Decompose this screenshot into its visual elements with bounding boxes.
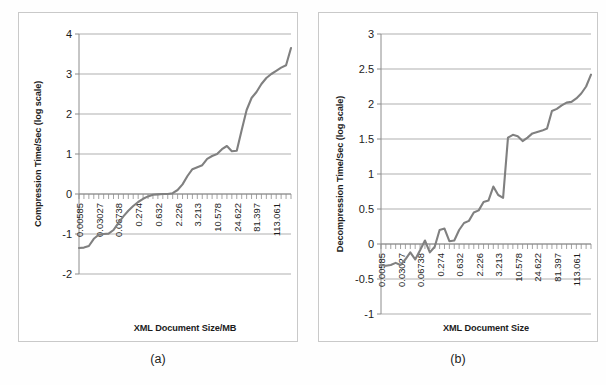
x-tick-label: 81.397 bbox=[251, 203, 262, 232]
x-tick-label: 81.397 bbox=[552, 253, 563, 282]
x-tick-label: 0.00585 bbox=[74, 203, 85, 237]
x-tick-label: 0.03027 bbox=[396, 253, 407, 287]
y-tick-label: 2 bbox=[368, 98, 374, 110]
y-tick-label: -1 bbox=[364, 308, 374, 320]
figure-root: -2-1012340.005850.030270.067380.2740.632… bbox=[0, 0, 606, 385]
y-tick-label: 0 bbox=[66, 188, 72, 200]
y-tick-label: 3 bbox=[66, 68, 72, 80]
y-axis-title: Compression Time/Sec (log scale) bbox=[33, 81, 43, 227]
y-tick-label: 1 bbox=[368, 168, 374, 180]
caption-b: (b) bbox=[318, 352, 598, 366]
x-tick-label: 0.06738 bbox=[113, 203, 124, 237]
y-tick-label: 0 bbox=[368, 238, 374, 250]
x-tick-label: 3.213 bbox=[493, 253, 504, 276]
chart-panel-a: -2-1012340.005850.030270.067380.2740.632… bbox=[18, 12, 298, 342]
chart-a-canvas: -2-1012340.005850.030270.067380.2740.632… bbox=[19, 13, 299, 343]
x-tick-label: 24.622 bbox=[232, 203, 243, 232]
x-tick-label: 113.061 bbox=[271, 203, 282, 236]
series-line bbox=[381, 75, 591, 266]
x-tick-label: 0.03027 bbox=[94, 203, 105, 237]
x-tick-label: 0.632 bbox=[454, 253, 465, 276]
y-tick-label: 4 bbox=[66, 28, 72, 40]
chart-panel-b: -1-0.500.511.522.530.005850.030270.06738… bbox=[318, 12, 598, 342]
x-tick-label: 24.622 bbox=[532, 253, 543, 282]
x-tick-label: 0.274 bbox=[435, 253, 446, 276]
x-tick-label: 3.213 bbox=[192, 203, 203, 226]
x-tick-label: 0.274 bbox=[133, 203, 144, 226]
y-tick-label: 1.5 bbox=[359, 133, 374, 145]
y-tick-label: 2 bbox=[66, 108, 72, 120]
y-tick-label: -0.5 bbox=[355, 273, 374, 285]
y-tick-label: -2 bbox=[62, 268, 72, 280]
x-axis-title: XML Document Size/MB bbox=[134, 323, 237, 333]
y-axis-title: Decompression Time/Sec (log scale) bbox=[335, 96, 345, 252]
x-tick-label: 2.226 bbox=[474, 253, 485, 276]
y-tick-label: 3 bbox=[368, 28, 374, 40]
y-tick-label: 1 bbox=[66, 148, 72, 160]
x-tick-label: 10.578 bbox=[513, 253, 524, 282]
x-tick-label: 10.578 bbox=[212, 203, 223, 232]
x-tick-label: 113.061 bbox=[571, 253, 582, 286]
y-tick-label: -1 bbox=[62, 228, 72, 240]
x-tick-label: 0.00585 bbox=[376, 253, 387, 287]
x-tick-label: 2.226 bbox=[173, 203, 184, 226]
y-tick-label: 0.5 bbox=[359, 203, 374, 215]
chart-b-canvas: -1-0.500.511.522.530.005850.030270.06738… bbox=[319, 13, 599, 343]
x-tick-label: 0.632 bbox=[153, 203, 164, 226]
caption-a: (a) bbox=[18, 352, 298, 366]
x-axis-title: XML Document Size bbox=[443, 323, 529, 333]
y-tick-label: 2.5 bbox=[359, 63, 374, 75]
